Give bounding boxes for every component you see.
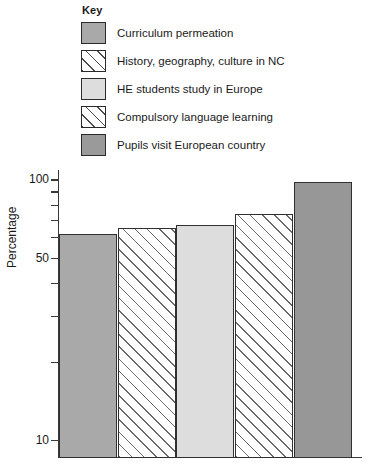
- y-axis-tick: [51, 179, 58, 180]
- legend-title: Key: [82, 4, 381, 16]
- bar: [235, 214, 293, 459]
- y-axis-tick-label: 100: [29, 173, 49, 185]
- legend-item-label: Pupils visit European country: [117, 139, 265, 152]
- bar: [59, 234, 117, 459]
- legend-item-label: Curriculum permeation: [117, 27, 233, 40]
- y-axis-tick-label: 10: [36, 434, 49, 446]
- legend-swatch-diagonal-hatch: [81, 50, 106, 72]
- bar: [118, 228, 176, 458]
- legend-swatch-light-gray: [81, 78, 106, 100]
- legend-swatch-diagonal-hatch: [81, 106, 106, 128]
- legend-swatch-dark-gray: [81, 134, 106, 156]
- y-axis-tick: [51, 362, 58, 363]
- y-axis-tick: [51, 237, 58, 238]
- legend-swatch-solid-gray: [81, 22, 106, 44]
- legend-item: Pupils visit European country: [81, 133, 381, 157]
- percentage-bar-chart: Key Curriculum permeationHistory, geogra…: [0, 0, 382, 475]
- bar: [294, 182, 352, 458]
- legend-item-label: Compulsory language learning: [117, 111, 273, 124]
- legend-item-list: Curriculum permeationHistory, geography,…: [81, 21, 381, 157]
- legend-item: History, geography, culture in NC: [81, 49, 381, 73]
- y-axis-label: Percentage: [6, 207, 18, 268]
- legend-item: Curriculum permeation: [81, 21, 381, 45]
- legend-item: HE students study in Europe: [81, 77, 381, 101]
- y-axis-tick: [51, 283, 58, 284]
- y-axis-tick: [51, 191, 58, 192]
- y-axis-tick: [51, 205, 58, 206]
- legend-item-label: HE students study in Europe: [117, 83, 263, 96]
- y-axis-tick: [51, 440, 58, 441]
- bar: [176, 225, 234, 458]
- y-axis-tick: [51, 316, 58, 317]
- legend-item-label: History, geography, culture in NC: [117, 55, 285, 68]
- y-axis-tick: [51, 258, 58, 259]
- y-axis-tick-label: 50: [36, 252, 49, 264]
- plot-area: 1005010: [58, 170, 349, 458]
- y-axis-tick: [51, 220, 58, 221]
- chart-legend: Key Curriculum permeationHistory, geogra…: [81, 4, 381, 161]
- legend-item: Compulsory language learning: [81, 105, 381, 129]
